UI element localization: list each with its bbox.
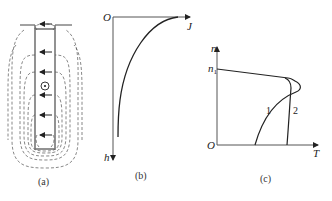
curve-2-label: 2 xyxy=(293,106,298,116)
dashed-flux-lines xyxy=(8,24,82,168)
caption-c: (c) xyxy=(260,174,271,184)
figure-canvas xyxy=(0,0,332,201)
current-out-of-page-symbol xyxy=(41,82,49,90)
t-axis-label: T xyxy=(313,148,319,159)
n-axis-label: n xyxy=(211,43,217,54)
caption-a: (a) xyxy=(38,177,49,187)
flux-direction-arrows xyxy=(40,24,52,135)
n1-tick-label: n1 xyxy=(208,63,217,76)
curve-2 xyxy=(285,78,291,145)
j-axis-label: J xyxy=(187,21,192,32)
origin-label-b: O xyxy=(103,12,111,23)
h-axis-label: h xyxy=(104,152,110,163)
origin-label-c: O xyxy=(207,140,215,151)
panel-b xyxy=(113,17,190,160)
panel-a xyxy=(8,24,82,168)
curve-1-label: 1 xyxy=(266,106,271,116)
j-h-curve xyxy=(118,17,178,137)
caption-b: (b) xyxy=(135,171,147,181)
panel-c xyxy=(217,47,318,145)
